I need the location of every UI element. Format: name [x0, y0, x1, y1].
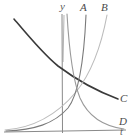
- y-axis-label: y: [60, 1, 65, 12]
- curve-b-path: [5, 15, 107, 130]
- curve-label-b: B: [101, 2, 108, 13]
- curve-label-a: A: [80, 2, 87, 13]
- curve-label-c: C: [120, 93, 127, 104]
- y-axis-accent-line: [63, 15, 64, 62]
- chart-plot-area: [0, 0, 132, 139]
- curve-a-path: [6, 15, 86, 131]
- curve-d-path: [67, 14, 124, 129]
- t-axis-label: t: [120, 127, 123, 137]
- curve-c-path: [14, 19, 118, 99]
- chart-figure: y A B C D t: [0, 0, 132, 139]
- y-axis-line: [62, 14, 63, 133]
- t-axis-line: [4, 130, 126, 132]
